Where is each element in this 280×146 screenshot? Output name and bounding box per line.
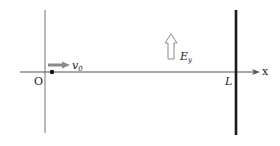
wall-distance-label: L	[224, 75, 232, 88]
electric-field-label: Ey	[179, 50, 193, 64]
x-axis-label: x	[262, 65, 269, 78]
velocity-label: v0	[72, 59, 83, 73]
particle-dot	[50, 70, 54, 74]
electric-field-arrow-icon	[165, 34, 177, 59]
velocity-arrow-icon	[48, 62, 70, 69]
origin-label: O	[34, 75, 43, 88]
diagram-canvas: x O v0 Ey L	[0, 0, 280, 146]
